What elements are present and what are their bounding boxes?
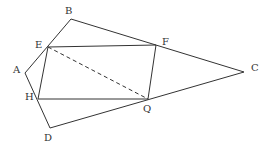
- diagram-lines: [0, 0, 268, 149]
- label-d: D: [44, 133, 52, 143]
- label-q: Q: [143, 104, 151, 114]
- segment-eq: [48, 47, 148, 99]
- label-f: F: [162, 37, 169, 47]
- segment-cd: [50, 72, 244, 128]
- geometry-diagram: A B C D E F H Q: [0, 0, 268, 149]
- segment-ef: [48, 45, 156, 47]
- label-c: C: [251, 63, 259, 73]
- label-e: E: [35, 40, 42, 50]
- segment-fq: [148, 45, 156, 99]
- label-a: A: [13, 65, 20, 75]
- label-h: H: [25, 92, 34, 102]
- segment-ab: [25, 19, 71, 73]
- segment-he: [38, 47, 48, 99]
- label-b: B: [65, 6, 72, 16]
- segment-bc: [71, 19, 244, 72]
